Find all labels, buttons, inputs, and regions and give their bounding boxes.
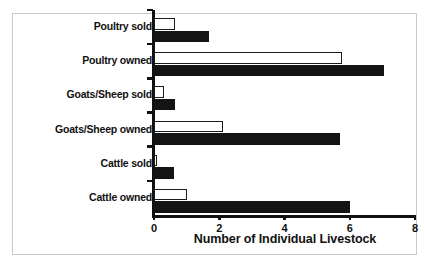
x-tick-2: [218, 215, 221, 220]
y-tick-poultry-owned: [147, 43, 153, 46]
bar-black-bar-goats-sheep-owned: [154, 133, 340, 145]
y-axis-label-goats-sheep-sold: Goats/Sheep sold: [14, 88, 152, 100]
bar-white-bar-cattle-owned: [154, 189, 187, 201]
y-tick-cattle-owned: [147, 180, 153, 183]
y-axis-label-poultry-sold: Poultry sold: [14, 20, 152, 32]
bar-black-bar-goats-sheep-sold: [154, 99, 175, 111]
y-tick-cattle-sold: [147, 145, 153, 148]
bar-black-bar-poultry-sold: [154, 31, 209, 43]
y-tick-poultry-sold: [147, 9, 153, 12]
y-axis-label-cattle-owned: Cattle owned: [14, 191, 152, 203]
x-tick-0: [153, 215, 156, 220]
bar-black-bar-poultry-owned: [154, 65, 384, 77]
y-axis-label-goats-sheep-owned: Goats/Sheep owned: [14, 123, 152, 135]
bar-white-bar-poultry-owned: [154, 52, 342, 64]
y-axis-label-poultry-owned: Poultry owned: [14, 54, 152, 66]
chart-figure: Poultry soldPoultry ownedGoats/Sheep sol…: [0, 0, 425, 267]
y-axis-label-cattle-sold: Cattle sold: [14, 157, 152, 169]
x-tick-4: [283, 215, 286, 220]
bar-black-bar-cattle-owned: [154, 201, 350, 213]
plot-area: 02468: [154, 10, 415, 215]
bar-white-bar-goats-sheep-sold: [154, 86, 164, 98]
y-tick-goats-sheep-sold: [147, 77, 153, 80]
x-axis-title: Number of Individual Livestock: [154, 232, 416, 246]
bar-black-bar-cattle-sold: [154, 167, 174, 179]
y-tick-goats-sheep-owned: [147, 111, 153, 114]
bar-white-bar-cattle-sold: [154, 155, 157, 167]
x-tick-6: [349, 215, 352, 220]
x-tick-8: [414, 215, 417, 220]
bar-white-bar-poultry-sold: [154, 18, 175, 30]
y-axis-category-labels: Poultry soldPoultry ownedGoats/Sheep sol…: [14, 14, 152, 214]
bar-white-bar-goats-sheep-owned: [154, 121, 223, 133]
